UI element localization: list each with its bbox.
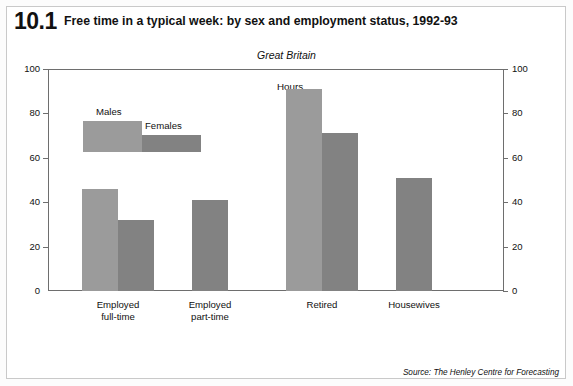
y-tick-right-80	[503, 113, 508, 114]
figure-number: 10.1	[14, 8, 57, 35]
bar-employed-full-time-males	[82, 189, 118, 291]
y-tick-right-100	[503, 69, 508, 70]
y-tick-right-0	[503, 291, 508, 292]
legend-label-males: Males	[96, 106, 122, 117]
y-axis-left-label-60: 60	[0, 153, 40, 163]
x-axis-label-line-2: part-time	[150, 311, 270, 323]
y-axis-left-label-0: 0	[0, 286, 40, 296]
bar-retired-males	[286, 89, 322, 291]
legend-swatch-males	[83, 121, 142, 152]
y-tick-right-40	[503, 202, 508, 203]
y-tick-left-60	[43, 158, 48, 159]
y-tick-left-80	[43, 113, 48, 114]
x-axis-label-line-1: Housewives	[354, 299, 474, 311]
source-note: Source: The Henley Centre for Forecastin…	[403, 368, 559, 377]
y-axis-right-label-0: 0	[512, 286, 552, 296]
y-tick-left-100	[43, 69, 48, 70]
figure-subtitle: Great Britain	[0, 49, 573, 61]
legend-swatch-females	[142, 135, 201, 152]
x-axis-label-line-1: Employed	[150, 299, 270, 311]
y-axis-right-label-80: 80	[512, 108, 552, 118]
bar-housewives-females	[396, 178, 432, 291]
y-axis-right-label-20: 20	[512, 242, 552, 252]
y-tick-left-40	[43, 202, 48, 203]
y-tick-right-20	[503, 247, 508, 248]
chart-plot-area: 100 80 60 40 20 0 100 80 60 40 20 0 Hour…	[48, 69, 503, 291]
x-axis-label-employed-part-time: Employed part-time	[150, 299, 270, 322]
figure-header: 10.1 Free time in a typical week: by sex…	[0, 0, 573, 42]
y-axis-right-line	[503, 69, 504, 291]
chart-top-line	[48, 69, 503, 70]
x-axis-label-housewives: Housewives	[354, 299, 474, 311]
y-axis-right-label-100: 100	[512, 64, 552, 74]
y-tick-left-20	[43, 247, 48, 248]
y-axis-left-label-40: 40	[0, 197, 40, 207]
figure-page: 10.1 Free time in a typical week: by sex…	[0, 0, 573, 386]
y-axis-left-label-20: 20	[0, 242, 40, 252]
legend-label-females: Females	[145, 120, 182, 131]
y-axis-right-label-60: 60	[512, 153, 552, 163]
y-axis-left-label-80: 80	[0, 108, 40, 118]
y-axis-left-label-100: 100	[0, 64, 40, 74]
bar-employed-part-time-females	[192, 200, 228, 291]
y-axis-left-line	[48, 69, 49, 291]
y-axis-right-label-40: 40	[512, 197, 552, 207]
y-tick-right-60	[503, 158, 508, 159]
bar-employed-full-time-females	[118, 220, 154, 291]
bar-retired-females	[322, 133, 358, 291]
page-title: Free time in a typical week: by sex and …	[64, 14, 458, 28]
